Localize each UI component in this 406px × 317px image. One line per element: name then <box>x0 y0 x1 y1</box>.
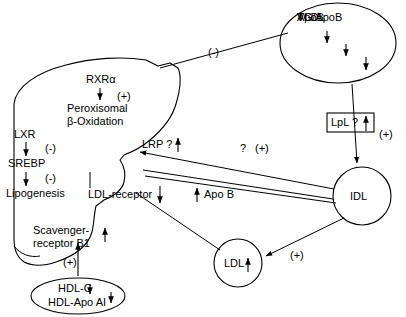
liver-to-vldl-sign: (-) <box>208 46 219 58</box>
scavenger-receptor-line1-label: Scavenger- <box>33 224 89 236</box>
lpl-box-label: LpL ? <box>331 116 358 128</box>
lrp-label: LRP ? <box>142 138 172 150</box>
idl-question-sign: (+) <box>255 142 269 154</box>
pathway-diagram: VLDL TG ApoB TG/ApoB IDL LDL HDL-C HDL-A… <box>0 0 406 317</box>
idl-node-label: IDL <box>350 190 367 202</box>
beta-oxidation-label: β-Oxidation <box>67 115 123 127</box>
idl-to-ldl-sign: (+) <box>290 249 304 261</box>
hdl-to-scavenger-sign: (+) <box>63 256 77 268</box>
lxr-sign-2-label: (-) <box>45 172 56 184</box>
srebp-label: SREBP <box>8 157 45 169</box>
lipogenesis-label: Lipogenesis <box>6 187 65 199</box>
rxr-alpha-label: RXRα <box>86 73 116 85</box>
lxr-sign-1-label: (-) <box>45 142 56 154</box>
peroxisomal-label: Peroxisomal <box>67 102 128 114</box>
lxr-label: LXR <box>14 128 35 140</box>
rxr-sign-label: (+) <box>117 90 131 102</box>
diagram-canvas <box>0 0 406 317</box>
edge-idl-to-ldl <box>266 218 344 256</box>
edge-idl-to-lrp <box>140 152 334 189</box>
apob-label: Apo B <box>204 188 234 200</box>
ldl-receptor-label: LDL-receptor <box>88 188 152 200</box>
ldl-node-label: LDL <box>224 257 244 269</box>
hdl-c-label: HDL-C <box>58 282 92 294</box>
edge-ldl-to-liver <box>136 193 220 250</box>
edge-liver-to-idl-secondary <box>145 176 336 203</box>
edge-idl-lower-to-liver <box>143 170 333 199</box>
edge-liver-to-vldl <box>160 33 288 68</box>
scavenger-receptor-line2-label: receptor B1 <box>33 237 90 249</box>
idl-question-mark: ? <box>240 142 246 154</box>
vldl-to-idl-sign: (+) <box>379 128 393 140</box>
hdl-apoai-label: HDL-Apo AI <box>48 296 106 308</box>
vldl-line-3-text: TG/ApoB <box>297 11 342 23</box>
